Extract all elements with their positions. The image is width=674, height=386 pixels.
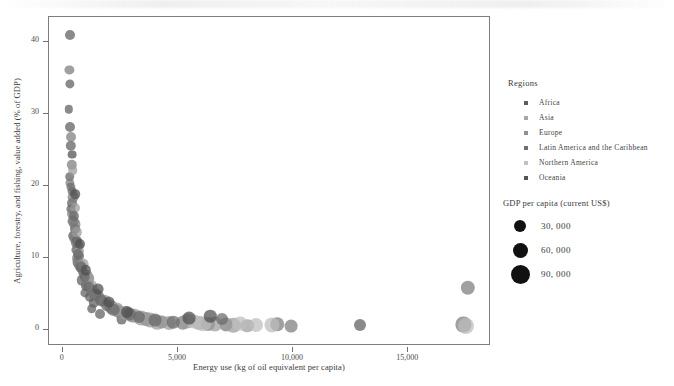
region-legend-label: Latin America and the Caribbean [539,143,648,152]
scatter-point [70,189,80,199]
scatter-point [121,306,133,318]
scatter-point [68,166,78,176]
y-tick-label: 10 [31,251,39,260]
region-legend-item[interactable]: Africa [508,95,668,110]
scatter-points-layer [49,17,489,344]
scatter-point [66,132,76,142]
size-legend-title: GDP per capita (current US$) [503,198,673,208]
scatter-point [68,150,77,159]
scatter-point [233,316,248,331]
region-legend-label: Northern America [539,158,598,167]
region-legend-title: Regions [508,78,668,88]
x-tick-label: 15,000 [396,353,418,362]
region-legend-item[interactable]: Oceania [508,170,668,185]
y-tick-label: 30 [31,107,39,116]
region-legend-item[interactable]: Latin America and the Caribbean [508,140,668,155]
scatter-point [284,319,297,332]
y-axis-title: Agriculture, forestry, and fishing, valu… [10,16,24,345]
region-legend: Regions AfricaAsiaEuropeLatin America an… [508,78,668,185]
scatter-point [458,318,474,334]
scatter-point [183,312,196,325]
region-legend-item[interactable]: Europe [508,125,668,140]
y-axis-title-text: Agriculture, forestry, and fishing, valu… [12,78,22,284]
scatter-point [65,66,74,75]
size-legend-bubble-wrap [503,220,537,232]
region-legend-item[interactable]: Asia [508,110,668,125]
x-tick-label: 10,000 [281,353,303,362]
scatter-plot-figure: Agriculture, forestry, and fishing, valu… [0,0,674,386]
size-legend-bubble [511,265,530,284]
region-legend-swatch [524,131,528,135]
region-legend-label: Europe [539,128,562,137]
scatter-point [65,30,75,40]
size-legend-bubble-wrap [503,243,537,258]
size-legend-bubble [513,243,528,258]
x-tick-mark [407,347,408,352]
region-legend-swatch [524,101,528,105]
scatter-point [354,319,366,331]
region-legend-label: Africa [539,98,560,107]
scatter-point [216,313,228,325]
y-tick-label: 40 [31,35,39,44]
scatter-point [72,227,82,237]
size-legend-item[interactable]: 60, 000 [503,238,673,262]
size-legend-label: 30, 000 [541,221,571,231]
region-legend-item[interactable]: Northern America [508,155,668,170]
size-legend: GDP per capita (current US$) 30, 00060, … [503,198,673,286]
x-tick-mark [177,347,178,352]
region-legend-label: Asia [539,113,554,122]
size-legend-bubble [514,220,526,232]
region-legend-swatch [524,176,528,180]
size-legend-items: 30, 00060, 00090, 000 [503,214,673,286]
scatter-point [461,280,475,294]
scatter-point [73,249,83,259]
region-legend-swatch [524,161,528,165]
scatter-point [65,79,74,88]
region-legend-label: Oceania [539,173,566,182]
scatter-point [64,105,72,113]
size-legend-label: 60, 000 [541,245,571,255]
scatter-point [75,239,85,249]
region-legend-items: AfricaAsiaEuropeLatin America and the Ca… [508,95,668,185]
scatter-point [93,284,104,295]
size-legend-label: 90, 000 [541,269,571,279]
x-tick-mark [292,347,293,352]
x-axis-title: Energy use (kg of oil equivalent per cap… [48,362,490,372]
plot-area [48,16,490,345]
region-legend-swatch [524,116,528,120]
scatter-point [133,311,145,323]
y-tick-label: 20 [31,179,39,188]
x-tick-label: 0 [60,353,64,362]
region-legend-swatch [524,146,528,150]
size-legend-item[interactable]: 30, 000 [503,214,673,238]
size-legend-item[interactable]: 90, 000 [503,262,673,286]
x-tick-label: 5,000 [168,353,186,362]
x-tick-mark [62,347,63,352]
scatter-point [148,314,161,327]
y-tick-label: 0 [35,323,39,332]
size-legend-bubble-wrap [503,265,537,284]
scatter-point [249,318,263,332]
scatter-point [69,211,79,221]
